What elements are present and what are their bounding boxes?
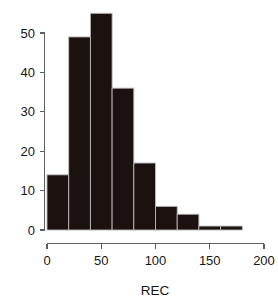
- x-tick-label-200: 200: [253, 253, 275, 268]
- y-tick-label-10: 10: [21, 183, 35, 198]
- x-tick-label-150: 150: [199, 253, 221, 268]
- histogram-bar-1: [69, 37, 91, 230]
- histogram-bar-5: [156, 206, 178, 230]
- histogram-plot-area: 0 10 20 30 40 50: [0, 0, 278, 308]
- x-axis-tick-labels: 0 50 100 150 200: [43, 253, 274, 268]
- x-tick-label-50: 50: [94, 253, 108, 268]
- x-axis-title: REC: [141, 283, 170, 298]
- x-axis-ticks: [47, 244, 264, 249]
- histogram-bar-6: [177, 214, 199, 230]
- histogram-bar-2: [90, 13, 112, 230]
- y-tick-label-0: 0: [28, 223, 35, 238]
- histogram-bar-3: [112, 88, 134, 230]
- histogram-bar-4: [134, 163, 156, 230]
- y-tick-label-30: 30: [21, 104, 35, 119]
- x-tick-label-0: 0: [43, 253, 50, 268]
- histogram-bar-0: [47, 175, 69, 230]
- y-axis-tick-labels: 0 10 20 30 40 50: [21, 26, 35, 238]
- y-tick-label-50: 50: [21, 26, 35, 41]
- histogram-bars: [47, 13, 242, 230]
- histogram-bar-7: [199, 226, 221, 230]
- histogram-bar-8: [221, 226, 243, 230]
- y-tick-label-40: 40: [21, 65, 35, 80]
- y-tick-label-20: 20: [21, 144, 35, 159]
- histogram-chart: 0 10 20 30 40 50: [0, 0, 278, 308]
- y-axis-ticks: [40, 33, 45, 230]
- x-tick-label-100: 100: [145, 253, 167, 268]
